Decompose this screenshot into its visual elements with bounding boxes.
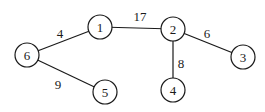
- edge-weight-2-3: 6: [204, 26, 211, 41]
- node-label-5: 5: [102, 85, 109, 100]
- node-5: 5: [93, 80, 117, 104]
- node-4: 4: [161, 78, 185, 102]
- node-label-2: 2: [170, 22, 177, 37]
- edge-weight-6-1: 4: [57, 26, 64, 41]
- node-label-6: 6: [24, 48, 31, 63]
- node-label-3: 3: [240, 50, 247, 65]
- node-3: 3: [231, 45, 255, 69]
- graph-diagram: 4 17 6 8 9 1 2 3 4 5 6: [0, 0, 265, 112]
- node-6: 6: [15, 43, 39, 67]
- edge-6-5: [27, 55, 105, 92]
- node-label-4: 4: [170, 83, 177, 98]
- node-1: 1: [88, 15, 112, 39]
- node-2: 2: [161, 17, 185, 41]
- edge-weight-1-2: 17: [134, 9, 148, 24]
- edge-weight-6-5: 9: [55, 77, 62, 92]
- edge-weight-2-4: 8: [178, 56, 185, 71]
- node-label-1: 1: [97, 20, 104, 35]
